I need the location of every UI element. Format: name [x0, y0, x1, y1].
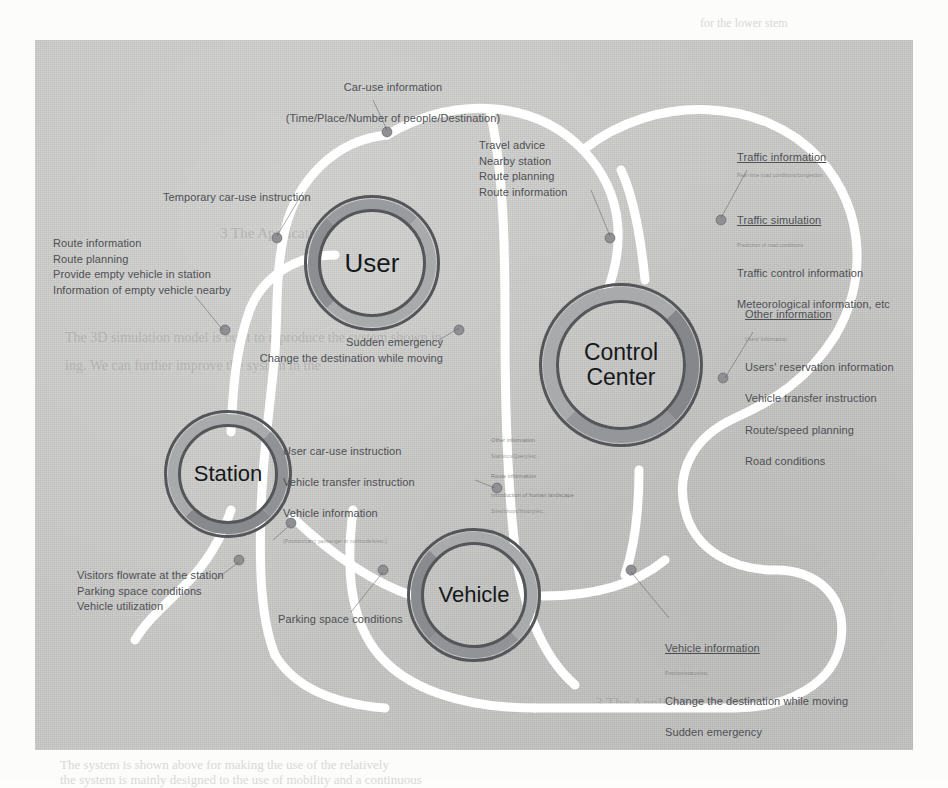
leader-route-left: [195, 296, 223, 330]
label-other-information-right-head-sub: Users' information: [745, 336, 894, 343]
label-other-information-right-line2: Users' reservation information: [745, 360, 894, 376]
label-user-car-use-instruction: User car-use instruction Vehicle transfe…: [283, 428, 415, 561]
label-vehicle-information-bottom-head: Vehicle information: [665, 626, 848, 657]
node-station-label: Station: [164, 410, 292, 538]
connection-dot-station-lower: [234, 555, 244, 565]
label-traffic-information-line2: Traffic simulation: [737, 197, 890, 228]
label-traffic-information-line2-sub: Prediction of road conditions: [737, 242, 890, 249]
node-station[interactable]: Station: [164, 410, 292, 538]
connection-dot-travel-advice: [605, 233, 615, 243]
label-other-information-right-line3: Vehicle transfer instruction: [745, 391, 894, 407]
label-other-information-right-line4: Route/speed planning: [745, 423, 894, 439]
label-temporary-car-use-instruction: Temporary car-use instruction: [163, 190, 311, 206]
label-other-information-small: Other information Statistics/Query/etc. …: [491, 428, 621, 523]
curve-control-up: [621, 170, 645, 280]
label-car-use-information-line1: Car-use information: [263, 80, 523, 96]
node-control-center[interactable]: Control Center: [539, 283, 703, 447]
node-vehicle-label: Vehicle: [407, 528, 541, 662]
label-vehicle-information-bottom: Vehicle information Position/status/etc.…: [665, 610, 848, 750]
leader-travel-advice: [591, 190, 610, 236]
label-vehicle-information-bottom-head-sub: Position/status/etc.: [665, 670, 848, 677]
label-user-car-use-instruction-line2: Vehicle transfer instruction: [283, 475, 415, 491]
label-other-information-small-line2: Route information: [491, 472, 621, 480]
curve-left-bottom: [275, 655, 385, 708]
label-user-car-use-instruction-line3: Vehicle information: [283, 506, 415, 522]
node-vehicle[interactable]: Vehicle: [407, 528, 541, 662]
label-other-information-small-line1-sub: Statistics/Query/etc.: [491, 453, 621, 461]
label-travel-advice: Travel advice Nearby station Route plann…: [479, 138, 568, 200]
connection-dot-route-left: [220, 325, 230, 335]
diagram-panel: 3 The Application The 3D simulation mode…: [35, 40, 913, 750]
label-user-car-use-instruction-line3-sub: (Position/carry passenger or not/models/…: [283, 538, 415, 545]
label-other-information-small-line1: Other information: [491, 436, 621, 444]
node-user-label: User: [304, 195, 440, 331]
label-traffic-information-line2-text: Traffic simulation: [737, 214, 821, 226]
label-vehicle-information-bottom-line2: Change the destination while moving: [665, 694, 848, 710]
background-text-bottom-1: The system is shown above for making the…: [60, 757, 389, 773]
label-car-use-information: Car-use information (Time/Place/Number o…: [263, 64, 523, 142]
connection-dot-parking: [378, 565, 388, 575]
label-other-information-right-head-text: Other information: [745, 308, 832, 320]
label-traffic-information-head: Traffic information Real-time road condi…: [737, 135, 890, 182]
label-other-information-right-line5: Road conditions: [745, 454, 894, 470]
label-traffic-information-head-sub: Real-time road conditions/congestion: [737, 172, 823, 178]
label-visitors-flowrate: Visitors flowrate at the station Parking…: [77, 568, 224, 615]
label-parking-space-conditions: Parking space conditions: [278, 612, 403, 628]
label-vehicle-information-bottom-head-text: Vehicle information: [665, 642, 760, 654]
background-text-right-top: for the lower stem: [700, 16, 788, 31]
label-user-car-use-instruction-line1: User car-use instruction: [283, 444, 415, 460]
connection-dot-other-right: [718, 373, 728, 383]
label-route-information-left: Route information Route planning Provide…: [53, 236, 231, 298]
label-sudden-emergency-user: Sudden emergency Change the destination …: [253, 335, 443, 366]
label-other-information-right: Other information Users' information Use…: [745, 276, 894, 485]
node-user[interactable]: User: [304, 195, 440, 331]
label-traffic-information-head-text: Traffic information: [737, 151, 826, 163]
connection-dot-vehicle-bottom: [626, 565, 636, 575]
background-text-bottom-2: the system is mainly designed to the use…: [60, 772, 422, 788]
label-other-information-right-head: Other information: [745, 292, 894, 323]
label-other-information-small-line3-sub: Sites/shops/history/etc.: [491, 508, 621, 516]
node-control-center-label: Control Center: [539, 283, 703, 447]
label-car-use-information-line2: (Time/Place/Number of people/Destination…: [263, 111, 523, 127]
connection-dot-temporary: [272, 233, 282, 243]
connection-dot-traffic: [716, 215, 726, 225]
label-other-information-small-line3: Introduction of human landscape: [491, 491, 621, 499]
label-vehicle-information-bottom-line3: Sudden emergency: [665, 725, 848, 741]
leader-vehicle-bottom: [631, 572, 669, 618]
curve-control-down: [625, 470, 639, 575]
